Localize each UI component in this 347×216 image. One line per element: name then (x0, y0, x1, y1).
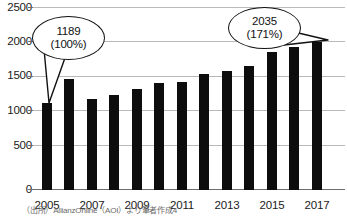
gridline-2500 (33, 7, 345, 8)
source-caption: （出所）AllianzOnline（AOI）より筆者作成4 (22, 204, 177, 215)
callout-value: 2035 (229, 15, 300, 28)
y-tick-mark (28, 189, 33, 190)
chart-figure: 2500 2000 1500 1000 500 0 2005 (0, 0, 347, 216)
bar-2015 (267, 52, 277, 190)
callout-percent: (100%) (33, 38, 104, 51)
bar-2007 (87, 99, 97, 190)
x-axis-tick-label: 2017 (295, 199, 339, 211)
callout-2017: 2035 (171%) (228, 7, 301, 49)
y-tick-mark (28, 76, 33, 77)
callout-value: 1189 (33, 25, 104, 38)
x-axis-tick-label: 2015 (250, 199, 294, 211)
x-axis-tick-label: 2013 (205, 199, 249, 211)
bar-2010 (154, 83, 164, 190)
y-tick-mark (28, 110, 33, 111)
y-tick-mark (28, 7, 33, 8)
y-axis-tick-label: 1500 (0, 69, 32, 81)
bar-2008 (109, 95, 119, 190)
bar-2005 (42, 103, 52, 190)
bar-2017 (312, 42, 322, 190)
y-tick-mark (28, 145, 33, 146)
bar-2009 (132, 89, 142, 190)
callout-2005: 1189 (100%) (32, 16, 105, 60)
bar-2011 (177, 82, 187, 191)
bar-2012 (199, 74, 209, 191)
callout-percent: (171%) (229, 28, 300, 41)
bar-2014 (244, 66, 254, 190)
bar-2013 (222, 71, 232, 190)
bar-2016 (289, 47, 299, 190)
